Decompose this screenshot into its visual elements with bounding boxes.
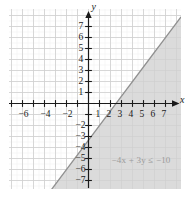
- y-axis-arrow: [85, 11, 91, 18]
- y-tick-label: 7: [79, 22, 84, 32]
- x-tick-label: 5: [140, 110, 145, 120]
- coordinate-plane-svg: [0, 0, 187, 198]
- y-tick-label: −7: [76, 176, 86, 186]
- x-tick-label: 2: [107, 110, 112, 120]
- y-tick-label: 5: [79, 44, 84, 54]
- y-tick-label: 6: [79, 33, 84, 43]
- y-tick-label: −3: [76, 132, 86, 142]
- y-tick-label: 2: [79, 77, 84, 87]
- x-tick-label: 1: [96, 110, 101, 120]
- x-tick-label: −2: [63, 110, 73, 120]
- inequality-annotation: −4x + 3y ≤ −10: [112, 155, 171, 165]
- x-tick-label: −6: [19, 110, 29, 120]
- y-tick-label: −6: [76, 165, 86, 175]
- y-tick-label: −2: [76, 121, 86, 131]
- shaded-solution-region: [9, 17, 181, 198]
- y-tick-label: 1: [79, 88, 84, 98]
- y-axis-label: y: [92, 2, 96, 12]
- x-tick-label: 4: [129, 110, 134, 120]
- y-tick-label: −5: [76, 154, 86, 164]
- y-tick-label: 3: [79, 66, 84, 76]
- x-axis-label: x: [180, 95, 184, 105]
- x-tick-label: −4: [41, 110, 51, 120]
- x-tick-label: 7: [162, 110, 167, 120]
- x-tick-label: 3: [118, 110, 123, 120]
- graph-figure: −6−4−21234567 7654321−2−3−4−5−6−7 x y −4…: [0, 0, 187, 198]
- y-tick-label: −4: [76, 143, 86, 153]
- x-tick-label: 6: [151, 110, 156, 120]
- y-tick-label: 4: [79, 55, 84, 65]
